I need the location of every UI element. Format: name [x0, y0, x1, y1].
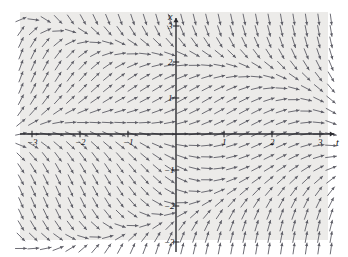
field-arrowhead: [197, 167, 200, 170]
t-tick-label: −1: [123, 138, 134, 147]
field-arrowhead: [321, 121, 324, 124]
field-arrowhead: [293, 33, 296, 36]
field-arrowhead: [309, 109, 312, 112]
field-arrowhead: [185, 201, 188, 204]
field-arrowhead: [135, 121, 138, 124]
field-arrowhead: [222, 178, 225, 181]
x-tick-label: 1: [168, 94, 173, 103]
field-arrowhead: [160, 213, 163, 216]
field-arrowhead: [209, 189, 212, 192]
field-arrowhead: [284, 98, 287, 101]
field-arrowhead: [309, 121, 312, 124]
field-arrowhead: [268, 33, 271, 36]
t-tick-label: −3: [27, 138, 38, 147]
field-arrowhead: [194, 243, 197, 246]
field-arrowhead: [255, 22, 258, 25]
field-arrowhead: [243, 22, 246, 25]
t-tick-label: −2: [75, 138, 86, 147]
field-arrowhead: [185, 63, 188, 66]
field-arrowhead: [308, 99, 311, 102]
field-arrowhead: [318, 44, 321, 47]
x-tick-label: 2: [168, 58, 173, 67]
field-arrowhead: [197, 179, 200, 182]
field-arrowhead: [209, 64, 212, 67]
t-tick-label: 2: [270, 138, 275, 147]
field-arrowhead: [222, 166, 225, 169]
field-arrowhead: [234, 166, 237, 169]
field-arrowhead: [256, 232, 259, 235]
field-arrowhead: [305, 33, 308, 36]
direction-field-canvas: [0, 0, 348, 257]
field-arrowhead: [181, 22, 184, 25]
field-arrowhead: [330, 220, 333, 223]
field-arrowhead: [159, 53, 162, 56]
x-tick-label: −1: [164, 166, 175, 175]
field-arrowhead: [147, 121, 150, 124]
field-arrowhead: [234, 155, 237, 158]
field-arrowhead: [330, 45, 333, 48]
field-arrowhead: [135, 224, 138, 227]
field-arrowhead: [85, 121, 88, 124]
field-arrowhead: [321, 110, 324, 113]
field-arrowhead: [147, 53, 150, 56]
field-arrowhead: [36, 247, 39, 250]
field-arrowhead: [218, 243, 221, 246]
field-arrowhead: [135, 52, 138, 55]
field-arrowhead: [305, 220, 308, 223]
field-arrowhead: [61, 29, 64, 32]
field-arrowhead: [60, 120, 63, 123]
field-arrowhead: [293, 232, 296, 235]
field-arrowhead: [259, 86, 262, 89]
field-arrowhead: [247, 75, 250, 78]
y-axis-label: x: [168, 12, 172, 22]
field-arrowhead: [280, 220, 283, 223]
field-arrowhead: [296, 98, 299, 101]
field-arrowhead: [318, 220, 321, 223]
field-arrowhead: [268, 232, 271, 235]
field-arrowhead: [293, 220, 296, 223]
field-arrowhead: [98, 41, 101, 44]
field-arrowhead: [305, 232, 308, 235]
x-tick-label: −3: [164, 238, 175, 247]
field-arrowhead: [271, 86, 274, 89]
field-arrowhead: [197, 144, 200, 147]
field-arrowhead: [110, 121, 113, 124]
field-arrowhead: [159, 63, 162, 66]
field-arrowhead: [73, 121, 76, 124]
field-arrowhead: [259, 75, 262, 78]
field-arrowhead: [209, 144, 212, 147]
field-arrowhead: [85, 40, 88, 43]
field-arrowhead: [243, 232, 246, 235]
field-arrowhead: [231, 22, 234, 25]
field-arrowhead: [172, 120, 175, 123]
direction-field-figure: −3 −2 −1 1 2 3 3 2 1 −1 −2 −3 x t: [0, 0, 348, 257]
field-arrowhead: [184, 120, 187, 123]
field-arrowhead: [284, 87, 287, 90]
x-axis-label: t: [336, 138, 339, 148]
t-tick-label: 3: [318, 138, 323, 147]
field-arrowhead: [210, 178, 213, 181]
y-axis-arrowhead: [173, 18, 178, 22]
field-arrowhead: [280, 232, 283, 235]
field-arrowhead: [296, 87, 299, 90]
field-arrowhead: [48, 246, 51, 249]
t-tick-label: 1: [222, 138, 227, 147]
x-tick-label: −2: [164, 202, 175, 211]
field-arrowhead: [209, 155, 212, 158]
field-arrowhead: [209, 167, 212, 170]
field-arrowhead: [221, 75, 224, 78]
field-arrowhead: [280, 33, 283, 36]
field-arrowhead: [206, 243, 209, 246]
field-arrowhead: [98, 235, 101, 238]
field-arrowhead: [218, 22, 221, 25]
field-arrowhead: [317, 33, 320, 36]
field-arrowhead: [271, 76, 274, 79]
field-arrowhead: [194, 22, 197, 25]
x-tick-label: 3: [168, 22, 173, 31]
field-arrowhead: [172, 212, 175, 215]
field-arrowhead: [23, 247, 26, 250]
field-arrowhead: [231, 232, 234, 235]
field-arrowhead: [197, 64, 200, 67]
field-arrowhead: [206, 22, 209, 25]
field-arrowhead: [197, 190, 200, 193]
